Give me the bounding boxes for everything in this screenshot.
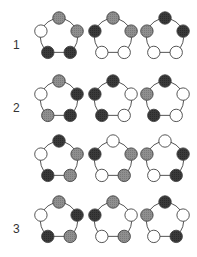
node-dark-right [71,209,83,221]
node-white-left [35,25,47,37]
node-dark-right [177,148,189,160]
pentagon-r4-c1 [35,196,84,243]
pentagon-r2-c3 [141,75,190,122]
pentagon-r2-c1 [35,75,84,122]
node-dark-left [89,25,101,37]
node-white-top [159,135,171,147]
node-dark-top [107,75,119,87]
node-gray-right [125,25,137,37]
node-gray-left [141,25,153,37]
node-dark-bottom-right [64,109,76,121]
node-gray-bottom-right [64,230,76,242]
node-gray-right [125,148,137,160]
node-dark-bottom-right [170,169,182,181]
node-gray-bottom-right [64,169,76,181]
node-white-left [35,148,47,160]
node-dark-bottom-right [170,230,182,242]
node-dark-bottom-left [42,169,54,181]
node-white-bottom-left [96,230,108,242]
node-dark-bottom-left [148,109,160,121]
node-dark-top [159,196,171,208]
pentagon-r2-c2 [89,75,138,122]
node-white-left [35,209,47,221]
node-gray-bottom-left [42,109,54,121]
node-white-bottom-left [148,169,160,181]
node-dark-right [71,88,83,100]
node-white-bottom-left [148,230,160,242]
node-white-bottom-left [96,169,108,181]
node-gray-left [141,148,153,160]
node-white-bottom-right [118,46,130,58]
pentagon-r1-c1 [35,12,84,59]
node-white-bottom-right [170,109,182,121]
pentagon-r3-c3 [141,135,190,182]
pentagon-diagram [0,0,197,257]
node-white-bottom-left [148,46,160,58]
node-white-bottom-left [96,46,108,58]
node-white-top [107,135,119,147]
node-dark-bottom-left [96,109,108,121]
node-gray-top [107,12,119,24]
pentagon-r1-c2 [89,12,138,59]
node-gray-top [53,12,65,24]
node-white-right [177,88,189,100]
node-white-right [125,88,137,100]
node-white-bottom-right [118,109,130,121]
node-dark-top [159,75,171,87]
node-gray-right [71,148,83,160]
pentagon-r4-c3 [141,196,190,243]
node-dark-top [159,12,171,24]
pentagon-r3-c2 [89,135,138,182]
node-dark-left [89,148,101,160]
node-white-left [35,88,47,100]
node-dark-left [89,209,101,221]
node-gray-left [141,88,153,100]
node-gray-top [53,75,65,87]
node-white-right [125,209,137,221]
node-gray-right [71,25,83,37]
node-gray-top [53,196,65,208]
node-white-right [177,209,189,221]
node-dark-bottom-left [42,46,54,58]
node-gray-top [107,196,119,208]
pentagon-r4-c2 [89,196,138,243]
node-dark-bottom-right [64,46,76,58]
node-dark-right [177,25,189,37]
node-gray-bottom-right [118,230,130,242]
pentagon-r3-c1 [35,135,84,182]
node-gray-bottom-right [118,169,130,181]
node-dark-left [89,88,101,100]
node-dark-bottom-left [42,230,54,242]
node-white-bottom-right [170,46,182,58]
node-dark-top [53,135,65,147]
node-gray-left [141,209,153,221]
pentagon-r1-c3 [141,12,190,59]
